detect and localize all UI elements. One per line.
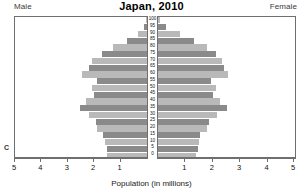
- male-bar-age-40: [86, 98, 147, 104]
- bar-row: [15, 44, 147, 50]
- age-tick-30: 30: [148, 112, 157, 117]
- bar-row: [15, 119, 147, 125]
- bar-row: [15, 112, 147, 118]
- age-tick-65: 65: [148, 64, 157, 69]
- bar-row: [158, 71, 295, 77]
- male-bar-age-25: [96, 119, 147, 125]
- female-tick-3: [239, 158, 240, 162]
- bar-row: [15, 139, 147, 145]
- bar-row: [158, 24, 295, 30]
- age-tick-40: 40: [148, 98, 157, 103]
- male-bar-age-5: [107, 146, 147, 152]
- male-x-axis: [14, 158, 148, 163]
- female-tick-label-1: 1: [182, 164, 186, 172]
- bar-row: [15, 92, 147, 98]
- age-tick-95: 95: [148, 24, 157, 29]
- female-bar-age-10: [158, 139, 199, 145]
- female-bar-age-100: [158, 17, 160, 23]
- female-bar-age-25: [158, 119, 209, 125]
- female-tick-label-2: 2: [210, 164, 214, 172]
- bar-row: [15, 17, 147, 23]
- age-tick-0: 0: [148, 152, 157, 157]
- bar-row: [158, 31, 295, 37]
- female-bar-age-5: [158, 146, 198, 152]
- male-bar-age-20: [97, 125, 147, 131]
- male-tick-2: [93, 158, 94, 162]
- male-bar-age-75: [102, 51, 147, 57]
- male-bar-age-80: [113, 44, 147, 50]
- bar-row: [158, 44, 295, 50]
- male-tick-5: [14, 158, 15, 162]
- male-bar-age-50: [92, 85, 147, 91]
- female-tick-label-4: 4: [265, 164, 269, 172]
- female-tick-label-3: 3: [237, 164, 241, 172]
- male-tick-4: [40, 158, 41, 162]
- female-bar-age-30: [158, 112, 217, 118]
- female-bar-age-75: [158, 51, 216, 57]
- bar-row: [158, 125, 295, 131]
- bar-row: [158, 105, 295, 111]
- female-bar-age-20: [158, 125, 207, 131]
- age-tick-60: 60: [148, 71, 157, 76]
- bar-row: [158, 98, 295, 104]
- male-tick-1: [120, 158, 121, 162]
- male-bar-age-95: [144, 24, 147, 30]
- bar-row: [158, 119, 295, 125]
- female-x-axis: [157, 158, 296, 163]
- corner-mark: C: [4, 144, 9, 151]
- male-bar-age-65: [89, 65, 147, 71]
- bar-row: [15, 85, 147, 91]
- population-pyramid-figure: Male Japan, 2010 Female 1009590858075706…: [0, 0, 303, 196]
- bar-row: [15, 78, 147, 84]
- male-bar-age-90: [138, 31, 147, 37]
- male-tick-label-4: 4: [38, 164, 42, 172]
- female-bar-age-60: [158, 71, 228, 77]
- bar-row: [15, 105, 147, 111]
- axis-line: [14, 158, 148, 159]
- female-tick-5: [293, 158, 294, 162]
- female-bar-age-95: [158, 24, 166, 30]
- age-tick-90: 90: [148, 31, 157, 36]
- age-tick-85: 85: [148, 37, 157, 42]
- bar-row: [15, 71, 147, 77]
- chart-title: Japan, 2010: [0, 0, 303, 12]
- female-bar-age-50: [158, 85, 216, 91]
- bar-row: [15, 132, 147, 138]
- bar-row: [158, 78, 295, 84]
- age-tick-20: 20: [148, 125, 157, 130]
- male-tick-label-2: 2: [91, 164, 95, 172]
- age-tick-55: 55: [148, 78, 157, 83]
- age-tick-80: 80: [148, 44, 157, 49]
- age-tick-50: 50: [148, 85, 157, 90]
- male-bar-age-60: [82, 71, 147, 77]
- bar-row: [15, 24, 147, 30]
- bar-row: [15, 98, 147, 104]
- age-tick-45: 45: [148, 91, 157, 96]
- female-plot-area: [157, 16, 296, 158]
- bar-row: [15, 125, 147, 131]
- age-tick-75: 75: [148, 51, 157, 56]
- female-bar-age-90: [158, 31, 180, 37]
- male-bar-age-55: [97, 78, 147, 84]
- bar-row: [158, 17, 295, 23]
- bar-row: [158, 65, 295, 71]
- female-bar-age-35: [158, 105, 227, 111]
- male-tick-3: [67, 158, 68, 162]
- male-plot-area: [14, 16, 148, 158]
- bar-row: [158, 139, 295, 145]
- female-side-label: Female: [270, 2, 297, 11]
- male-bar-age-15: [103, 132, 147, 138]
- female-bar-age-85: [158, 38, 194, 44]
- x-axis-title: Population (in millions): [0, 179, 303, 188]
- female-tick-label-5: 5: [291, 164, 295, 172]
- male-tick-label-5: 5: [12, 164, 16, 172]
- bar-row: [15, 31, 147, 37]
- age-tick-10: 10: [148, 139, 157, 144]
- bar-row: [15, 146, 147, 152]
- age-tick-25: 25: [148, 118, 157, 123]
- female-bar-age-15: [158, 132, 200, 138]
- bar-row: [15, 38, 147, 44]
- female-bar-age-40: [158, 98, 220, 104]
- female-bar-age-65: [158, 65, 224, 71]
- male-tick-label-1: 1: [118, 164, 122, 172]
